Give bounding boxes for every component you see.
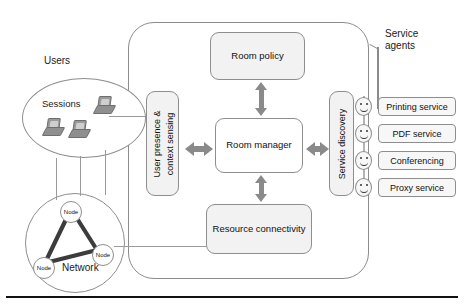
service-agents-bracket-tick [369,44,378,49]
network-node: Node [60,201,82,223]
service-agents-line-1: Service [385,28,418,39]
arrow-presence-room-manager [186,142,212,156]
service-agent-label[interactable]: PDF service [378,124,456,143]
smiley-agent-icon [355,97,372,116]
service-agent-label[interactable]: Proxy service [378,178,456,197]
arrow-room-manager-service-discovery [307,142,327,156]
page-separator-rule [6,296,458,298]
users-label: Users [44,55,70,66]
resource-connectivity-box: Resource connectivity [206,204,312,254]
sessions-ellipse [22,78,146,158]
user-presence-line-1: User presence & [151,110,161,177]
room-manager-box: Room manager [215,118,303,173]
user-presence-panel-label: User presence & context sensing [150,110,175,177]
service-discovery-panel-label: Service discovery [336,108,347,179]
connector-drop-line [105,150,106,195]
connector-network-to-resource [114,246,206,247]
user-presence-line-2: context sensing [164,112,174,175]
laptop-icon [44,118,61,134]
laptop-icon [95,96,112,112]
laptop-icon [70,120,87,136]
arrow-room-manager-room-policy [255,83,267,116]
smiley-agent-icon [355,151,372,170]
service-discovery-panel: Service discovery [329,91,354,196]
smiley-agent-icon [355,178,372,197]
connector-drop-line [56,158,57,200]
diagram-canvas: Users Sessions Node Node Node Network Us… [0,0,466,307]
user-presence-and-context-sensing-panel: User presence & context sensing [146,91,179,196]
service-agents-line-2: agents [385,40,415,51]
service-agents-group-label: Service agents [385,28,418,52]
sessions-label: Sessions [42,98,81,109]
connector-drop-line [80,156,81,196]
service-agent-label[interactable]: Printing service [378,97,456,116]
room-policy-box: Room policy [210,32,305,80]
network-node: Node [33,257,55,279]
smiley-agent-icon [355,124,372,143]
network-label: Network [62,262,99,273]
service-agent-label[interactable]: Conferencing [378,151,456,170]
arrow-resource-connectivity-room-manager [255,176,267,202]
